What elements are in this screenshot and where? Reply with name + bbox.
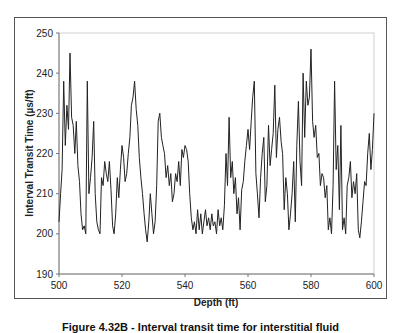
y-tick-label: 200	[36, 228, 53, 239]
y-tick-label: 210	[36, 188, 53, 199]
y-axis-ticks: 190200210220230240250	[36, 28, 59, 280]
x-tick-label: 560	[240, 280, 257, 291]
y-axis-title: Interval Transit Time (µs/ft)	[24, 89, 35, 216]
y-tick-label: 220	[36, 148, 53, 159]
x-tick-label: 580	[303, 280, 320, 291]
y-tick-label: 230	[36, 108, 53, 119]
x-tick-label: 500	[51, 280, 68, 291]
y-tick-label: 250	[36, 28, 53, 39]
figure-caption: Figure 4.32B - Interval transit time for…	[0, 321, 401, 333]
y-tick-label: 190	[36, 269, 53, 280]
plot-area	[59, 33, 374, 274]
x-axis-title: Depth (ft)	[194, 297, 238, 308]
x-tick-label: 540	[177, 280, 194, 291]
x-tick-label: 600	[366, 280, 383, 291]
y-tick-label: 240	[36, 68, 53, 79]
x-tick-label: 520	[114, 280, 131, 291]
x-axis-ticks: 500520540560580600	[51, 274, 383, 291]
